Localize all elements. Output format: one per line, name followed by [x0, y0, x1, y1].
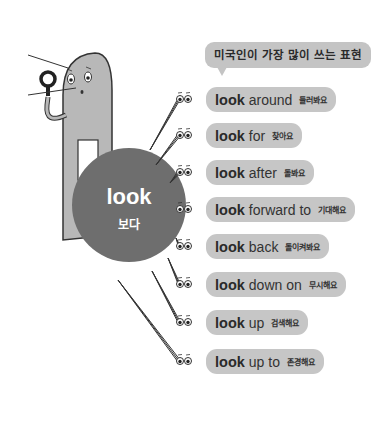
phrase-keyword: look — [215, 354, 245, 370]
phrase-keyword: look — [215, 165, 245, 181]
callout-bubble: 미국인이 가장 많이 쓰는 표현 — [205, 42, 371, 68]
phrase-pill: lookafter돌봐요 — [206, 160, 314, 185]
phrase-meaning: 검색해요 — [271, 317, 299, 328]
phrase-particle: down on — [249, 277, 302, 293]
phrase-meaning: 무시해요 — [309, 279, 337, 290]
phrase-particle: after — [249, 165, 277, 181]
phrase-keyword: look — [215, 202, 245, 218]
phrase-meaning: 찾아요 — [272, 130, 293, 141]
center-word: look — [79, 184, 179, 210]
phrase-particle: forward to — [249, 202, 311, 218]
phrase-pill: lookforward to기대해요 — [206, 197, 355, 222]
phrase-meaning: 돌봐요 — [284, 167, 305, 178]
phrase-keyword: look — [215, 277, 245, 293]
phrase-particle: around — [249, 92, 293, 108]
phrase-meaning: 존경해요 — [287, 356, 315, 367]
phrase-pill: lookback돌이켜봐요 — [206, 234, 329, 259]
phrase-meaning: 둘러봐요 — [299, 94, 327, 105]
phrase-particle: for — [249, 128, 265, 144]
eye-ray — [168, 258, 192, 288]
phrase-keyword: look — [215, 239, 245, 255]
phrase-pill: lookaround둘러봐요 — [206, 87, 336, 112]
phrase-pill: lookup to존경해요 — [206, 349, 324, 374]
center-meaning: 보다 — [79, 215, 179, 232]
eye-ray — [152, 271, 192, 326]
phrase-particle: up to — [249, 354, 280, 370]
eye-ray — [176, 238, 192, 250]
phrase-keyword: look — [215, 92, 245, 108]
phrase-pill: lookdown on무시해요 — [206, 272, 346, 297]
phrase-keyword: look — [215, 128, 245, 144]
phrase-pill: lookfor찾아요 — [206, 123, 302, 148]
phrase-pill: lookup검색해요 — [206, 310, 308, 335]
phrase-meaning: 기대해요 — [318, 204, 346, 215]
phrase-keyword: look — [215, 315, 245, 331]
phrase-meaning: 돌이켜봐요 — [285, 241, 320, 252]
eye-ray — [150, 93, 192, 151]
phrase-particle: back — [249, 239, 279, 255]
phrase-particle: up — [249, 315, 265, 331]
